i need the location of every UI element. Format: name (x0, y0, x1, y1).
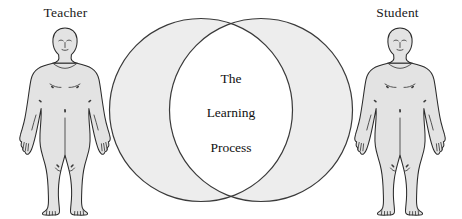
venn-intersection-line-1: The (178, 71, 284, 87)
teacher-figure (17, 22, 113, 216)
venn-intersection-line-2: Learning (178, 105, 284, 121)
human-body-outline-icon (352, 22, 448, 216)
diagram-canvas: Teacher Student (0, 0, 462, 219)
student-figure (352, 22, 448, 216)
venn-intersection-line-3: Process (178, 140, 284, 156)
human-body-outline-icon (17, 22, 113, 216)
